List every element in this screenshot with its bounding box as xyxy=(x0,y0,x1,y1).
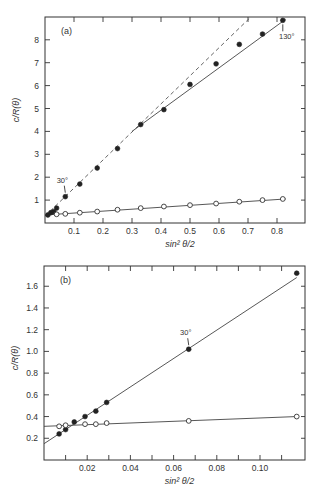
angle-annotation: 130° xyxy=(279,32,295,41)
data-point-filled xyxy=(237,42,242,47)
y-tick-label: 8 xyxy=(34,35,39,45)
data-point-filled xyxy=(294,271,299,276)
data-point-open xyxy=(280,197,285,202)
data-point-open xyxy=(260,198,265,203)
x-tick-label: 0.08 xyxy=(209,463,226,473)
y-axis-label: c/R(θ) xyxy=(10,346,20,370)
y-tick-label: 5 xyxy=(34,104,39,114)
dashed-fit-line xyxy=(45,17,251,216)
data-point-open xyxy=(237,199,242,204)
y-tick-label: 1.4 xyxy=(26,303,38,313)
data-point-filled xyxy=(54,206,59,211)
x-tick-label: 0.8 xyxy=(271,226,283,236)
data-point-filled xyxy=(138,122,143,127)
panel-label: (a) xyxy=(61,26,72,36)
y-tick-label: 7 xyxy=(34,58,39,68)
x-axis-label: sin² θ/2 xyxy=(165,239,194,249)
fit-line xyxy=(44,417,297,427)
data-point-open xyxy=(188,203,193,208)
angle-annotation: 30° xyxy=(180,328,191,337)
data-point-filled xyxy=(57,432,62,437)
data-point-filled xyxy=(115,146,120,151)
data-point-filled xyxy=(63,194,68,199)
chart-panel-b: 0.020.040.060.080.100.20.40.60.81.01.21.… xyxy=(10,266,305,486)
y-tick-label: 6 xyxy=(34,81,39,91)
x-tick-label: 0.10 xyxy=(252,463,269,473)
x-tick-label: 0.2 xyxy=(97,226,109,236)
x-tick-label: 0.04 xyxy=(122,463,139,473)
data-point-filled xyxy=(72,420,77,425)
data-point-filled xyxy=(260,32,265,37)
y-tick-label: 1.2 xyxy=(26,325,38,335)
annotation-arrow xyxy=(188,338,189,345)
data-point-filled xyxy=(93,409,98,414)
y-tick-label: 4 xyxy=(34,126,39,136)
data-point-filled xyxy=(162,107,167,112)
data-point-open xyxy=(95,209,100,214)
data-point-open xyxy=(77,210,82,215)
data-point-open xyxy=(214,201,219,206)
fit-line xyxy=(44,278,297,444)
data-point-open xyxy=(63,211,68,216)
data-point-open xyxy=(138,206,143,211)
data-point-filled xyxy=(186,347,191,352)
x-tick-label: 0.7 xyxy=(242,226,254,236)
data-point-open xyxy=(162,204,167,209)
data-point-filled xyxy=(77,182,82,187)
y-tick-label: 1 xyxy=(34,195,39,205)
data-point-open xyxy=(83,422,88,427)
annotation-arrow xyxy=(64,186,65,193)
x-tick-label: 0.1 xyxy=(68,226,80,236)
data-point-open xyxy=(57,424,62,429)
angle-annotation: 30° xyxy=(57,176,68,185)
y-tick-label: 3 xyxy=(34,149,39,159)
y-tick-label: 1.6 xyxy=(26,281,38,291)
y-tick-label: 0.4 xyxy=(26,412,38,422)
x-axis-label: sin² θ/2 xyxy=(165,476,194,486)
figure: 0.10.20.30.40.50.60.70.812345678sin² θ/2… xyxy=(0,0,317,491)
data-point-open xyxy=(104,421,109,426)
x-tick-label: 0.5 xyxy=(184,226,196,236)
y-tick-label: 1.0 xyxy=(26,346,38,356)
x-tick-label: 0.02 xyxy=(79,463,96,473)
data-point-open xyxy=(186,419,191,424)
data-point-filled xyxy=(280,18,285,23)
data-point-filled xyxy=(95,166,100,171)
data-point-filled xyxy=(214,61,219,66)
plot-frame xyxy=(44,266,305,460)
panel-label: (b) xyxy=(60,275,71,285)
y-axis-label: c/R(θ) xyxy=(11,98,21,122)
y-tick-label: 0.2 xyxy=(26,433,38,443)
data-point-filled xyxy=(83,414,88,419)
chart-panel-a: 0.10.20.30.40.50.60.70.812345678sin² θ/2… xyxy=(11,17,305,249)
data-point-open xyxy=(294,414,299,419)
data-point-open xyxy=(63,423,68,428)
plot-frame xyxy=(45,17,305,223)
data-point-open xyxy=(115,207,120,212)
data-point-filled xyxy=(188,82,193,87)
y-tick-label: 2 xyxy=(34,172,39,182)
x-tick-label: 0.4 xyxy=(155,226,167,236)
x-tick-label: 0.3 xyxy=(126,226,138,236)
data-point-open xyxy=(54,212,59,217)
x-tick-label: 0.6 xyxy=(213,226,225,236)
data-point-filled xyxy=(104,400,109,405)
data-point-open xyxy=(93,422,98,427)
x-tick-label: 0.06 xyxy=(165,463,182,473)
y-tick-label: 0.6 xyxy=(26,390,38,400)
y-tick-label: 0.8 xyxy=(26,368,38,378)
